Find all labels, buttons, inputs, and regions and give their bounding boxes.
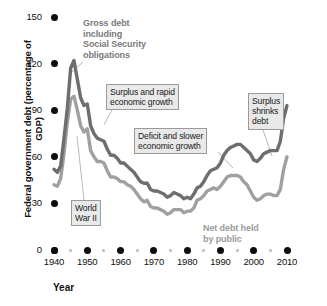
x-tick-dot [51,247,58,254]
x-tick-label: 1990 [203,256,237,267]
x-tick-dot-minor [69,249,72,252]
annotation-deficit-slower-growth: Deficit and slower economic growth [134,128,207,154]
leader-line-world-war-two [77,136,84,200]
y-tick-label: 150 [16,11,42,22]
y-tick-dot [51,107,58,114]
y-tick-dot [51,14,58,21]
x-tick-dot-minor [202,249,205,252]
x-tick-dot-minor [136,249,139,252]
y-tick-label: 0 [16,244,42,255]
x-tick-dot-minor [169,249,172,252]
annotation-net-debt: Net debt held by public [203,223,259,244]
x-tick-label: 1950 [70,256,104,267]
x-tick-dot [84,247,91,254]
x-tick-dot-minor [269,249,272,252]
y-axis-title: Federal government debt (percentage of G… [22,34,44,224]
y-tick-dot [51,200,58,207]
leader-line-surplus-rapid [104,108,113,125]
x-tick-dot [150,247,157,254]
annotation-gross-debt: Gross debt including Social Security obl… [83,18,146,60]
annotation-surplus-rapid-growth: Surplus and rapid economic growth [106,84,179,110]
y-tick-dot [51,153,58,160]
annotation-world-war-two: World War II [71,200,101,226]
annotation-surplus-shrinks-debt: Surplus shrinks debt [248,93,284,130]
x-tick-dot [117,247,124,254]
x-tick-dot [284,247,291,254]
x-tick-label: 2000 [237,256,271,267]
x-tick-label: 1940 [37,256,71,267]
chart-figure: 0306090120150 19401950196019701980199020… [0,0,327,306]
x-tick-dot [217,247,224,254]
x-tick-label: 1970 [137,256,171,267]
x-tick-label: 2010 [270,256,304,267]
x-tick-dot [250,247,257,254]
x-tick-dot-minor [236,249,239,252]
x-tick-label: 1980 [170,256,204,267]
x-axis-title: Year [53,282,74,293]
x-tick-label: 1960 [104,256,138,267]
y-tick-dot [51,60,58,67]
x-tick-dot [184,247,191,254]
